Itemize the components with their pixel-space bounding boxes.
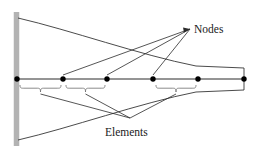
- elements-leader-line: [130, 94, 176, 118]
- nodes-leader-line: [107, 29, 190, 75]
- elements-leader-line: [86, 94, 131, 118]
- elements-leader-line: [41, 94, 131, 118]
- mesh-node: [195, 76, 200, 81]
- mesh-node: [60, 76, 65, 81]
- element-brace: [20, 85, 61, 92]
- elements-label: Elements: [105, 126, 148, 138]
- mesh-node: [241, 76, 246, 81]
- element-brace: [66, 85, 105, 92]
- nodes-label: Nodes: [194, 23, 224, 35]
- element-braces-group: [20, 85, 196, 92]
- mesh-node: [150, 76, 155, 81]
- element-brace: [156, 85, 196, 92]
- mesh-node: [104, 76, 109, 81]
- mesh-node: [14, 76, 19, 81]
- figure-canvas: Nodes Elements: [0, 0, 255, 156]
- fem-mesh-figure: Nodes Elements: [0, 0, 255, 156]
